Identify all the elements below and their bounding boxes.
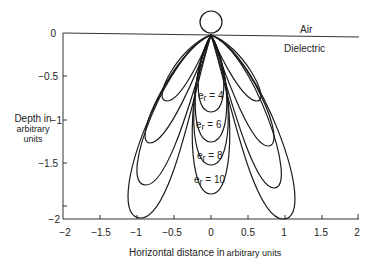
y-tick-3: −1.5	[38, 158, 58, 169]
air-label: Air	[300, 24, 313, 35]
left-lobe-er8	[137, 35, 211, 185]
svg-text:−2: −2	[59, 227, 71, 238]
y-tick-1: −0.5	[38, 71, 58, 82]
svg-text:−1: −1	[130, 227, 142, 238]
svg-text:1: 1	[281, 227, 287, 238]
x-tick-labels: −2 −1.5 −1 −0.5 0 0.5 1 1.5 2	[59, 227, 360, 238]
svg-text:0.5: 0.5	[241, 227, 255, 238]
y-tick-0: 0	[50, 28, 56, 39]
svg-text:−0.5: −0.5	[162, 227, 182, 238]
lobe-label-er10: er = 10	[194, 174, 226, 187]
svg-text:arbitrary: arbitrary	[16, 124, 50, 134]
y-axis-label: Depth in arbitrary units	[14, 113, 51, 144]
y-tick-4: −2	[49, 214, 61, 225]
svg-text:Depth in: Depth in	[14, 113, 51, 124]
center-lobe-er10	[192, 35, 230, 194]
x-axis-label: Horizontal distance inarbitrary units	[129, 247, 282, 258]
dielectric-label: Dielectric	[284, 43, 325, 54]
svg-text:−1.5: −1.5	[91, 227, 111, 238]
lobe-label-er4: er = 4	[198, 90, 224, 103]
antenna-circle	[200, 11, 222, 33]
svg-text:2: 2	[354, 227, 360, 238]
y-tick-2: −1	[51, 115, 63, 126]
left-lobe-er4	[162, 35, 211, 101]
svg-text:1.5: 1.5	[314, 227, 328, 238]
radiation-pattern-diagram: 0 −0.5 −1 −1.5 −2 Depth in arbitrary uni…	[0, 0, 374, 273]
svg-text:units: units	[23, 134, 43, 144]
svg-text:0: 0	[208, 227, 214, 238]
lobe-label-er6: er = 6	[196, 119, 222, 132]
